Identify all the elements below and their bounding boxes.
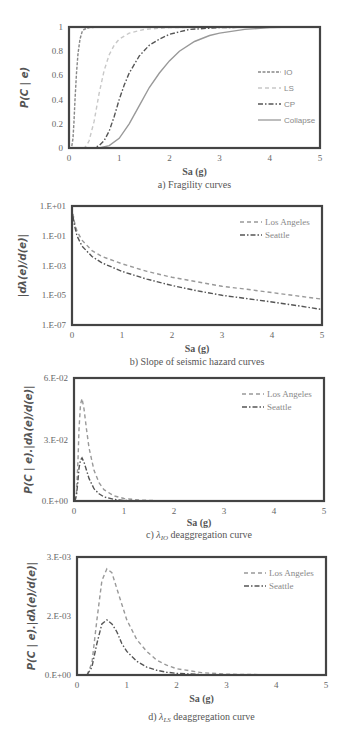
y-tick-label: 1.E-01 xyxy=(42,231,66,241)
x-tick-label: 2 xyxy=(170,330,175,340)
x-axis-label: Sa (g) xyxy=(185,343,210,355)
x-tick-label: 0 xyxy=(75,680,80,690)
y-axis-label: P(C | e).|dλ(e)/d(e)| xyxy=(26,562,38,670)
series-line-collapse xyxy=(69,27,320,148)
x-tick-label: 5 xyxy=(320,330,325,340)
legend-label: LS xyxy=(284,84,294,93)
x-tick-label: 3 xyxy=(224,680,229,690)
figure: 01234500.20.40.60.81Sa (g)P(C | e)a) Fra… xyxy=(0,0,347,741)
x-tick-label: 0 xyxy=(70,330,75,340)
x-tick-label: 4 xyxy=(274,680,279,690)
x-tick-label: 5 xyxy=(322,506,327,516)
y-tick-label: 3.E-02 xyxy=(44,435,68,445)
y-tick-label: 6.E-02 xyxy=(44,373,68,383)
y-tick-label: 0 xyxy=(59,143,64,153)
x-tick-label: 0 xyxy=(67,153,72,163)
chart-caption: c) λIO deaggregation curve xyxy=(146,529,252,542)
series-line-io xyxy=(69,27,320,148)
y-tick-label: 0.8 xyxy=(52,46,64,56)
chart-caption: a) Fragility curves xyxy=(158,179,231,191)
y-axis-label: P(C | e).|dλ(e)/d(e)| xyxy=(23,385,35,493)
legend-label: Los Angeles xyxy=(267,389,312,399)
x-tick-label: 3 xyxy=(220,330,225,340)
legend-label: CP xyxy=(284,100,295,109)
legend-label: Los Angeles xyxy=(269,568,314,578)
x-tick-label: 5 xyxy=(324,680,329,690)
y-tick-label: 1.E+01 xyxy=(40,201,66,211)
y-tick-label: 0.E+00 xyxy=(45,670,72,680)
x-axis-label: Sa (g) xyxy=(187,517,212,529)
x-tick-label: 4 xyxy=(270,330,275,340)
y-tick-label: 2.E-03 xyxy=(47,611,72,621)
legend-label: Seattle xyxy=(267,402,292,412)
chart-b: 0123451.E+011.E-011.E-031.E-051.E-07Sa (… xyxy=(17,201,325,368)
y-tick-label: 1 xyxy=(59,22,64,32)
x-tick-label: 2 xyxy=(174,680,179,690)
x-tick-label: 3 xyxy=(217,153,222,163)
y-tick-label: 0.6 xyxy=(52,70,64,80)
x-tick-label: 1 xyxy=(125,680,130,690)
legend-label: Seattle xyxy=(265,230,290,240)
chart-d: 0123450.E+002.E-033.E-03Sa (g)P(C | e).|… xyxy=(26,552,329,724)
y-tick-label: 3.E-03 xyxy=(47,552,72,562)
series-line-seattle xyxy=(75,458,324,501)
x-tick-label: 4 xyxy=(272,506,277,516)
y-tick-label: 1.E-05 xyxy=(42,290,67,300)
x-tick-label: 2 xyxy=(172,506,177,516)
series-line-los-angeles xyxy=(75,399,324,502)
plot-frame xyxy=(69,27,320,148)
x-tick-label: 3 xyxy=(222,506,227,516)
chart-caption: d) λLS deaggregation curve xyxy=(148,711,255,724)
x-tick-label: 1 xyxy=(120,330,125,340)
series-line-cp xyxy=(69,27,320,148)
legend-label: IO xyxy=(284,68,292,77)
legend: Los AngelesSeattle xyxy=(242,389,312,412)
series-line-seattle xyxy=(87,620,326,675)
y-tick-label: 0.2 xyxy=(52,119,63,129)
x-tick-label: 2 xyxy=(167,153,172,163)
legend: IOLSCPCollapse xyxy=(258,68,316,125)
x-axis-label: Sa (g) xyxy=(189,693,214,705)
legend-label: Los Angeles xyxy=(265,217,310,227)
series-line-ls xyxy=(69,27,320,148)
x-tick-label: 0 xyxy=(72,506,77,516)
chart-c: 0123450.E+003.E-026.E-02Sa (g)P(C | e).|… xyxy=(23,373,327,542)
y-axis-label: |dλ(e)/d(e)| xyxy=(17,234,29,297)
y-tick-label: 0.E+00 xyxy=(42,496,69,506)
chart-a: 01234500.20.40.60.81Sa (g)P(C | e)a) Fra… xyxy=(19,22,323,191)
x-tick-label: 1 xyxy=(122,506,127,516)
legend-label: Collapse xyxy=(284,116,316,125)
legend-label: Seattle xyxy=(269,581,294,591)
y-axis-label: P(C | e) xyxy=(19,67,31,108)
chart-caption: b) Slope of seismic hazard curves xyxy=(130,356,265,368)
legend: Los AngelesSeattle xyxy=(244,568,314,591)
x-tick-label: 4 xyxy=(268,153,273,163)
y-tick-label: 0.4 xyxy=(52,95,64,105)
x-tick-label: 5 xyxy=(318,153,323,163)
legend: Los AngelesSeattle xyxy=(240,217,310,240)
x-tick-label: 1 xyxy=(117,153,122,163)
y-tick-label: 1.E-03 xyxy=(42,261,67,271)
y-tick-label: 1.E-07 xyxy=(42,320,67,330)
x-axis-label: Sa (g) xyxy=(182,166,207,178)
